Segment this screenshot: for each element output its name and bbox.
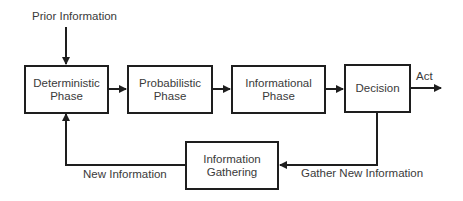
probabilistic-line1: Probabilistic <box>139 77 201 90</box>
deterministic-phase-node: DeterministicPhase <box>24 65 109 114</box>
information-gathering-node: InformationGathering <box>185 141 279 190</box>
deterministic-line1: Deterministic <box>33 77 99 90</box>
gathering-line1: Information <box>203 153 261 166</box>
probabilistic-line2: Phase <box>139 90 201 103</box>
probabilistic-phase-node: ProbabilisticPhase <box>127 65 213 114</box>
informational-line2: Phase <box>245 90 311 103</box>
arrow-decision-to-gathering <box>280 112 377 165</box>
prior-information-label: Prior Information <box>32 10 117 22</box>
act-label: Act <box>416 70 433 82</box>
deterministic-line2: Phase <box>33 90 99 103</box>
arrow-gathering-to-deterministic <box>66 114 185 165</box>
gathering-line2: Gathering <box>203 166 261 179</box>
informational-line1: Informational <box>245 77 311 90</box>
new-information-label: New Information <box>83 168 167 180</box>
informational-phase-node: InformationalPhase <box>231 65 326 114</box>
gather-new-information-label: Gather New Information <box>301 167 423 179</box>
decision-node: Decision <box>344 64 411 113</box>
decision-label: Decision <box>355 82 399 95</box>
